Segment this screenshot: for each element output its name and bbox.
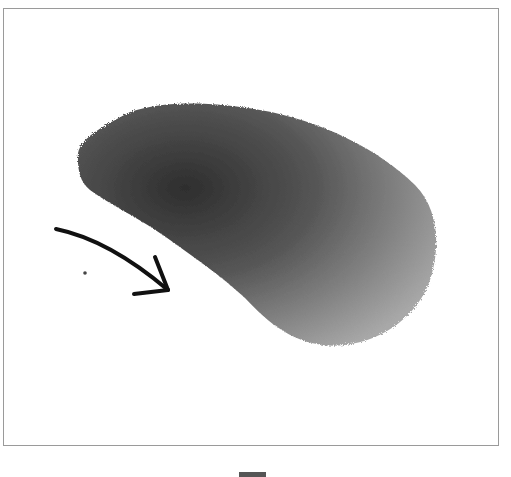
scale-bar — [239, 472, 266, 477]
specimen-body — [78, 104, 436, 346]
debris-dot — [83, 271, 87, 275]
specimen-image — [0, 0, 511, 477]
arrow-icon — [56, 229, 168, 294]
scale-bar-label: scale bar (unlabeled) — [0, 0, 1, 1]
